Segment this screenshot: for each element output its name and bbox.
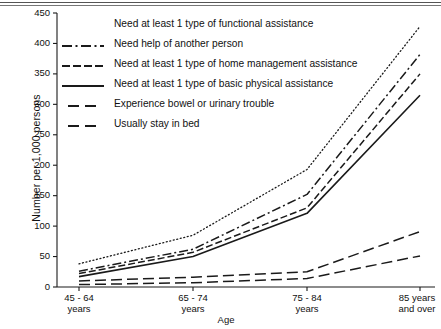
axes-layer <box>53 13 435 291</box>
series-line-usually-stay-in-bed <box>79 256 420 285</box>
series-line-need-at-least-1-type-of-functional-assistance <box>79 26 420 263</box>
series-line-experience-bowel-or-urinary-trouble <box>79 232 420 281</box>
line-chart-figure: Number per 1,000 persons 450 400 350 300… <box>0 0 441 329</box>
series-line-need-at-least-1-type-of-home-management-assistance <box>79 74 420 274</box>
plot-area <box>0 0 441 329</box>
series-layer <box>79 26 420 284</box>
series-line-need-help-of-another-person <box>79 54 420 271</box>
